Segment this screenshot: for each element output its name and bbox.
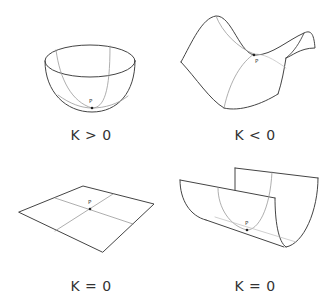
curvature-diagram: P P P (0, 0, 334, 302)
svg-text:P: P (245, 220, 249, 226)
saddle-label: K < 0 (215, 127, 295, 143)
svg-text:P: P (88, 199, 92, 205)
plane-surface: P (19, 186, 154, 252)
sphere-label: K > 0 (51, 127, 131, 143)
plane-label: K = 0 (51, 278, 131, 294)
cylinder-label: K = 0 (215, 278, 295, 294)
saddle-surface: P (181, 16, 315, 109)
svg-text:P: P (255, 58, 259, 64)
cylinder-surface: P (180, 168, 318, 247)
svg-text:P: P (89, 98, 93, 104)
sphere-surface: P (45, 45, 135, 112)
